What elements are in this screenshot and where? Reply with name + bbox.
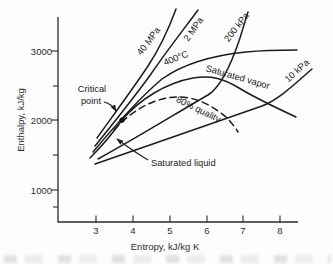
isobar-2mpa-curve [95,10,198,146]
saturated-liquid-leader-arrow [117,139,148,160]
x-axis-label: Entropy, kJ/kg K [131,241,200,252]
hs-diagram-canvas: 3000 2000 1000 3 4 5 6 7 8 Enthalpy, kJ/… [0,0,333,264]
x-tick-7: 7 [240,225,245,236]
label-critical-line2: point [81,96,102,106]
x-axis-ticks [96,216,280,223]
x-tick-8: 8 [277,225,282,236]
mollier-diagram-figure: 3000 2000 1000 3 4 5 6 7 8 Enthalpy, kJ/… [0,0,333,264]
y-tick-2000: 2000 [31,115,52,126]
y-tick-1000: 1000 [31,185,52,196]
label-40mpa: 40 MPa [135,25,163,57]
label-10kpa: 10 kPa [283,57,312,84]
label-saturated-liquid: Saturated liquid [151,158,216,168]
scan-artifact-strip [4,255,331,263]
critical-point-leader-arrow [104,102,116,111]
y-axis-label: Enthalpy, kJ/kg [15,88,26,152]
label-critical-line1: Critical [78,84,106,94]
x-tick-5: 5 [167,225,172,236]
x-tick-3: 3 [93,225,98,236]
y-tick-3000: 3000 [31,46,52,57]
x-tick-4: 4 [130,225,135,236]
isobar-40mpa-curve [97,9,176,138]
label-2mpa: 2 MPa [182,15,206,43]
axes-lines [58,17,298,222]
y-axis-ticks [51,51,58,207]
label-200kpa: 200 kPa [222,10,251,44]
critical-point-dot [119,117,124,122]
x-tick-6: 6 [204,225,209,236]
